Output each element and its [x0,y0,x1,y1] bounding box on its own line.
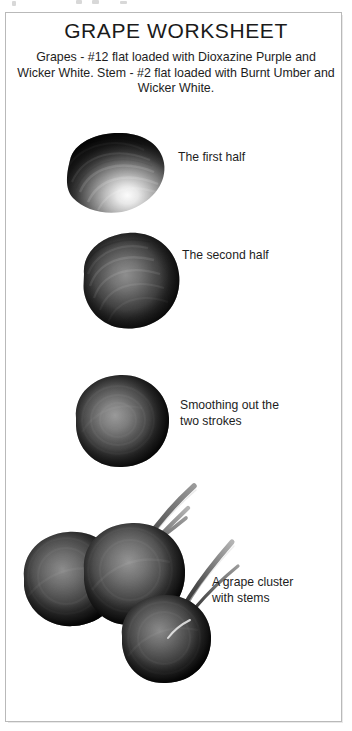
grape-smoothed [72,372,172,470]
grape-first-half-stroke [58,130,168,214]
step-4-label: A grape cluster with stems [212,575,293,606]
page-subtitle: Grapes - #12 flat loaded with Dioxazine … [16,50,336,97]
scan-artifact-mark [120,1,127,4]
scan-artifact-mark [92,0,99,4]
grape-cluster-with-stems [18,478,240,696]
worksheet-page: GRAPE WORKSHEET Grapes - #12 flat loaded… [0,0,352,731]
scan-artifact-mark [12,1,16,6]
step-3-label: Smoothing out the two strokes [180,398,279,429]
step-1-label: The first half [178,150,245,166]
cluster-grape-right [122,595,211,683]
scan-artifact-mark [76,0,82,4]
grape-second-half-stroke [78,230,184,332]
step-2-label: The second half [182,248,269,264]
page-title: GRAPE WORKSHEET [0,19,352,43]
scan-artifacts [0,0,352,11]
